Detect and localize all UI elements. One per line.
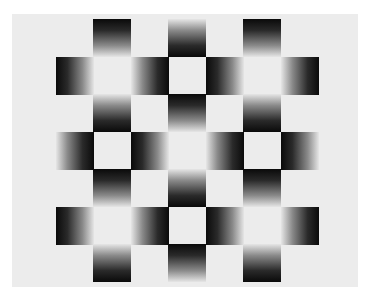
- gradient-square: [131, 57, 169, 95]
- gradient-square: [131, 207, 169, 245]
- image-description: Optical illusion: checkerboard of gradie…: [12, 14, 13, 15]
- gradient-square: [206, 207, 244, 245]
- gradient-square: [56, 207, 94, 245]
- gradient-square: [281, 207, 319, 245]
- gradient-square: [168, 19, 206, 57]
- gradient-square: [243, 19, 281, 57]
- gradient-square: [168, 244, 206, 282]
- gradient-square: [281, 132, 319, 170]
- gradient-square: [131, 132, 169, 170]
- gradient-square: [206, 132, 244, 170]
- gradient-square: [168, 94, 206, 132]
- gradient-square: [206, 57, 244, 95]
- gradient-square: [168, 169, 206, 207]
- gradient-square: [93, 244, 131, 282]
- gradient-square: [243, 244, 281, 282]
- gradient-square: [243, 169, 281, 207]
- gradient-square: [93, 94, 131, 132]
- gradient-square: [93, 19, 131, 57]
- illusion-board: Optical illusion: checkerboard of gradie…: [12, 14, 358, 287]
- gradient-square: [56, 132, 94, 170]
- gradient-square: [243, 94, 281, 132]
- gradient-square: [93, 169, 131, 207]
- gradient-square: [281, 57, 319, 95]
- gradient-square: [56, 57, 94, 95]
